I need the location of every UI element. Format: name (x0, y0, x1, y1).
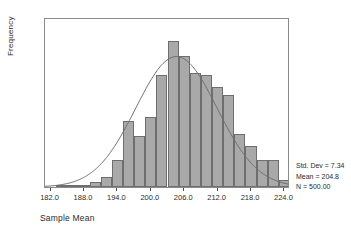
x-tick-label: 206.0 (174, 193, 193, 202)
y-axis: Frequency 010203040506070 (0, 0, 44, 188)
x-tick-mark (50, 188, 51, 191)
x-tick-label: 182.0 (40, 193, 59, 202)
y-axis-title: Frequency (6, 16, 15, 56)
x-tick-mark (217, 188, 218, 191)
x-tick-label: 188.0 (74, 193, 93, 202)
plot-area (44, 18, 289, 188)
x-axis: 182.0188.0194.0200.0206.0212.0218.0224.0 (44, 188, 289, 208)
x-tick-label: 218.0 (241, 193, 260, 202)
x-tick-mark (150, 188, 151, 191)
stat-mean: Mean = 204.8 (296, 172, 351, 183)
x-axis-title: Sample Mean (40, 213, 95, 223)
histogram-chart: Frequency 010203040506070 182.0188.0194.… (0, 0, 351, 241)
x-tick-mark (250, 188, 251, 191)
x-tick-mark (283, 188, 284, 191)
stats-legend: Std. Dev = 7.34 Mean = 204.8 N = 500.00 (296, 161, 351, 193)
x-tick-label: 200.0 (140, 193, 159, 202)
x-tick-label: 194.0 (107, 193, 126, 202)
stat-std-dev: Std. Dev = 7.34 (296, 161, 351, 172)
plot-inner (45, 19, 288, 187)
x-tick-mark (183, 188, 184, 191)
x-tick-mark (116, 188, 117, 191)
stat-n: N = 500.00 (296, 182, 351, 193)
x-tick-mark (83, 188, 84, 191)
normal-curve (45, 19, 288, 187)
x-tick-label: 224.0 (274, 193, 293, 202)
x-tick-label: 212.0 (207, 193, 226, 202)
